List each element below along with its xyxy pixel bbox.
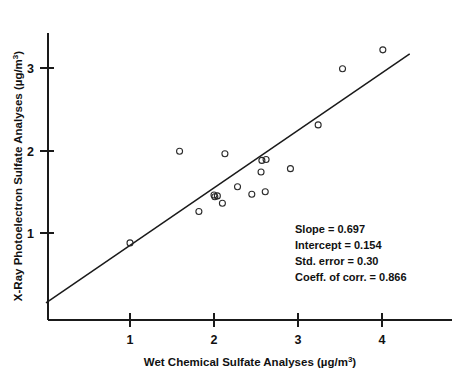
data-point-group	[127, 47, 386, 246]
stat-intercept: Intercept = 0.154	[295, 239, 382, 251]
data-point	[219, 200, 225, 206]
stat-std-error: Std. error = 0.30	[295, 255, 378, 267]
x-tick-label-2: 2	[211, 333, 218, 347]
data-point	[262, 189, 268, 195]
stat-slope: Slope = 0.697	[295, 223, 365, 235]
x-axis-title-tail: )	[352, 356, 356, 368]
x-axis-title: Wet Chemical Sulfate Analyses (µg/m3)	[144, 355, 357, 368]
x-tick-label-3: 3	[295, 333, 302, 347]
data-point	[380, 47, 386, 53]
y-axis-title-tail: )	[12, 51, 24, 55]
chart-figure: 1 2 3 1 2 3 4 Wet Chemical Sulfate Analy…	[0, 0, 459, 375]
data-point	[235, 184, 241, 190]
stat-coeff-corr: Coeff. of corr. = 0.866	[295, 271, 407, 283]
data-point	[287, 166, 293, 172]
data-point	[340, 66, 346, 72]
x-tick-label-1: 1	[127, 333, 134, 347]
y-tick-label-2: 2	[27, 145, 34, 159]
y-axis-ticks	[40, 68, 54, 233]
data-point	[258, 169, 264, 175]
statistics-annotation: Slope = 0.697 Intercept = 0.154 Std. err…	[295, 223, 407, 283]
y-tick-label-1: 1	[27, 227, 34, 241]
x-tick-label-4: 4	[379, 333, 386, 347]
y-axis-title: X-Ray Photoelectron Sulfate Analyses (µg…	[11, 51, 24, 301]
y-axis-title-main: X-Ray Photoelectron Sulfate Analyses (µg…	[12, 59, 24, 301]
data-point	[222, 151, 228, 157]
data-point	[196, 209, 202, 215]
data-point	[249, 191, 255, 197]
scatter-plot-canvas: 1 2 3 1 2 3 4 Wet Chemical Sulfate Analy…	[0, 0, 459, 375]
x-axis-title-main: Wet Chemical Sulfate Analyses (µg/m	[144, 356, 348, 368]
data-point	[177, 148, 183, 154]
y-tick-label-3: 3	[27, 62, 34, 76]
data-point	[315, 122, 321, 128]
data-point	[263, 157, 269, 163]
